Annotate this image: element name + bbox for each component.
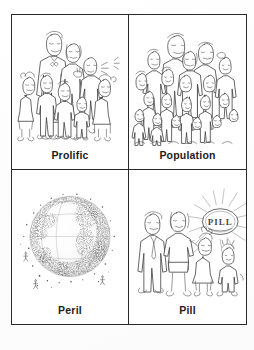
card-population[interactable]: Population — [129, 15, 246, 170]
card-prolific[interactable]: Prolific — [12, 15, 129, 170]
card-label-pill: Pill — [129, 304, 246, 324]
card-peril[interactable]: Peril — [12, 170, 129, 325]
card-label-population: Population — [129, 149, 246, 169]
card-label-prolific: Prolific — [12, 149, 128, 169]
card-pill[interactable]: PILL — [129, 170, 246, 325]
illustration-prolific — [12, 15, 128, 149]
card-label-peril: Peril — [12, 304, 128, 324]
illustration-population — [129, 15, 246, 149]
illustration-pill: PILL — [129, 170, 246, 305]
pill-badge-text: PILL — [208, 216, 233, 226]
flashcard-sheet: Prolific — [0, 0, 254, 350]
illustration-peril — [12, 170, 128, 305]
card-grid: Prolific — [11, 14, 247, 325]
